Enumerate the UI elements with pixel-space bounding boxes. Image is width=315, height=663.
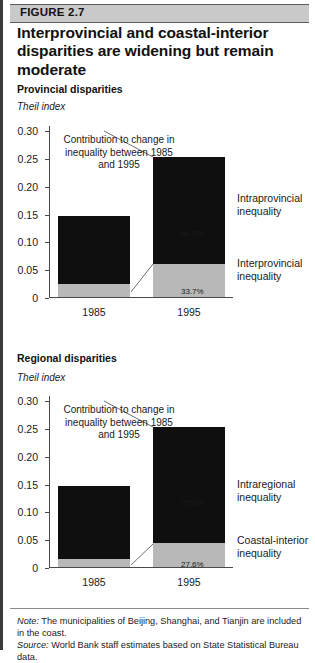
y-tick-label-0.05: 0.05 (18, 264, 38, 276)
bar-segment-intraprovincial-1985 (58, 216, 130, 283)
y-tick-0.10-2: 0.10 (45, 512, 49, 513)
y-tick-label-0: 0 (32, 292, 38, 304)
y-tick-label-0.20-2: 0.20 (18, 451, 38, 463)
bar-segment-intraprovincial-1995 (153, 157, 225, 264)
figure-number-band: FIGURE 2.7 (10, 4, 309, 23)
footnote-source: Source: World Bank staff estimates based… (17, 639, 307, 663)
callout-contribution-1: Contribution to change in inequality bet… (63, 134, 175, 172)
y-tick-0: 0 (45, 298, 49, 299)
y-tick-label-0.15: 0.15 (18, 209, 38, 221)
x-axis-line-1 (49, 297, 233, 298)
chart-regional-disparities: 0.30 0.25 0.20 0.15 0.10 0.05 0 (3, 396, 315, 596)
legend-intraprovincial-inequality: Intraprovincial inequality (237, 192, 315, 217)
y-tick-0.20-2: 0.20 (45, 457, 49, 458)
y-tick-label-0.10-2: 0.10 (18, 506, 38, 518)
y-tick-label-0.30-2: 0.30 (18, 395, 38, 407)
y-tick-label-0.10: 0.10 (18, 236, 38, 248)
legend-intraregional-inequality: Intraregional inequality (237, 478, 315, 503)
bar-1995-regional (153, 427, 225, 567)
axis-title-theil-index-1: Theil index (17, 101, 65, 112)
pct-label-intraprovincial: 66.3% (181, 229, 204, 238)
x-axis-line-2 (49, 567, 233, 568)
pct-label-intraregional: 72.4% (181, 499, 204, 508)
chart-provincial-disparities: 0.30 0.25 0.20 0.15 0.10 0.05 0 (3, 126, 315, 326)
y-tick-label-0-2: 0 (32, 562, 38, 574)
legend-coastal-interior-inequality: Coastal-interior inequality (237, 534, 315, 559)
y-tick-label-0.15-2: 0.15 (18, 479, 38, 491)
x-label-1985-regional: 1985 (82, 576, 105, 588)
y-tick-0.05: 0.05 (45, 270, 49, 271)
y-tick-0.10: 0.10 (45, 242, 49, 243)
y-tick-0.05-2: 0.05 (45, 540, 49, 541)
note-lead: Note: (17, 616, 39, 626)
y-tick-0.15-2: 0.15 (45, 485, 49, 486)
y-tick-0-2: 0 (45, 568, 49, 569)
bar-segment-intraregional-1985 (58, 486, 130, 559)
bar-1985-regional (58, 486, 130, 567)
source-lead: Source: (17, 640, 49, 650)
y-tick-0.30: 0.30 (45, 131, 49, 132)
y-tick-0.15: 0.15 (45, 215, 49, 216)
panel-heading-regional: Regional disparities (17, 352, 117, 364)
y-tick-label-0.25: 0.25 (18, 153, 38, 165)
y-tick-0.25-2: 0.25 (45, 429, 49, 430)
axis-title-theil-index-2: Theil index (17, 372, 65, 383)
y-tick-0.20: 0.20 (45, 187, 49, 188)
y-tick-label-0.25-2: 0.25 (18, 423, 38, 435)
x-label-1995-regional: 1995 (177, 576, 200, 588)
footnote-divider (10, 608, 309, 609)
bar-1995-provincial (153, 157, 225, 297)
figure-number-label: FIGURE 2.7 (20, 6, 85, 18)
bar-segment-coastal-interior-1985 (58, 559, 130, 567)
y-tick-0.30-2: 0.30 (45, 401, 49, 402)
bar-1985-provincial (58, 216, 130, 297)
page-title: Interprovincial and coastal-interior dis… (17, 24, 305, 79)
y-tick-label-0.05-2: 0.05 (18, 534, 38, 546)
y-axis-line-1 (49, 126, 50, 298)
source-text: World Bank staff estimates based on Stat… (17, 640, 299, 662)
pct-label-interprovincial: 33.7% (181, 287, 204, 296)
y-tick-0.25: 0.25 (45, 159, 49, 160)
note-text: The municipalities of Beijing, Shanghai,… (17, 616, 301, 638)
panel-heading-provincial: Provincial disparities (17, 83, 123, 95)
bar-segment-interprovincial-1985 (58, 284, 130, 297)
legend-interprovincial-inequality: Interprovincial inequality (237, 257, 315, 282)
x-label-1995-provincial: 1995 (177, 306, 200, 318)
y-tick-label-0.20: 0.20 (18, 181, 38, 193)
callout-contribution-2: Contribution to change in inequality bet… (63, 404, 175, 442)
footnote-note: Note: The municipalities of Beijing, Sha… (17, 615, 307, 639)
bar-segment-intraregional-1995 (153, 427, 225, 543)
pct-label-coastal-interior: 27.6% (181, 560, 204, 569)
y-axis-line-2 (49, 396, 50, 568)
y-tick-label-0.30: 0.30 (18, 125, 38, 137)
x-label-1985-provincial: 1985 (82, 306, 105, 318)
